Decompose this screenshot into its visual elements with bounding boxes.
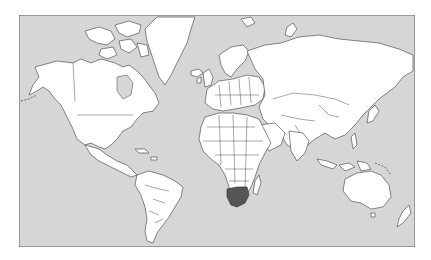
tasmania (371, 213, 375, 217)
world-map (19, 15, 415, 247)
